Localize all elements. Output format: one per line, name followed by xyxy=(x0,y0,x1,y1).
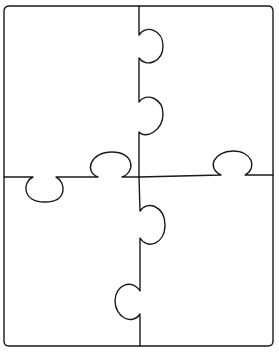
upper-vertical-cut xyxy=(139,6,163,177)
puzzle-diagram xyxy=(0,0,279,353)
puzzle-canvas xyxy=(0,0,279,353)
lower-vertical-cut xyxy=(115,177,165,346)
left-horizontal-cut xyxy=(4,152,139,202)
right-horizontal-cut xyxy=(139,151,273,177)
